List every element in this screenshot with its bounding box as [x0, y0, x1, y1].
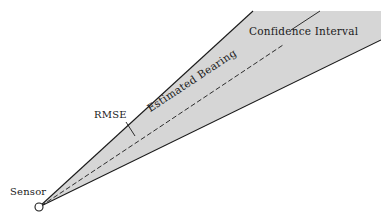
- sensor-label: Sensor: [10, 186, 46, 197]
- confidence-interval-region: [39, 11, 381, 207]
- sensor-marker-icon: [35, 203, 43, 211]
- rmse-label: RMSE: [94, 109, 127, 120]
- confidence-interval-label: Confidence Interval: [249, 25, 358, 37]
